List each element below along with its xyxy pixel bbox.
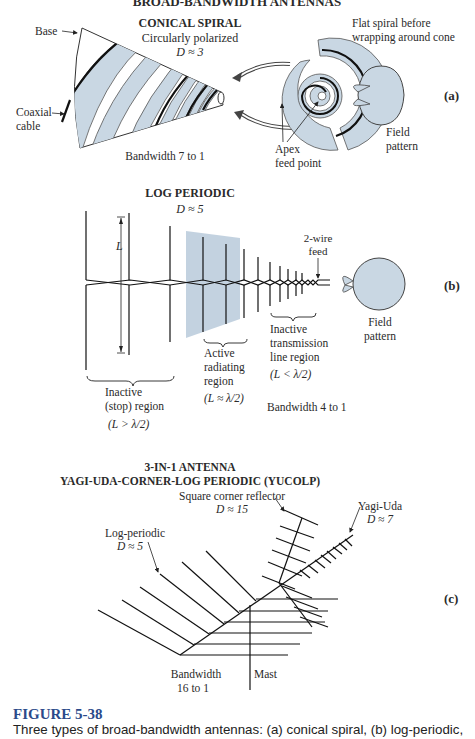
panel-a-id: (a) (444, 88, 459, 103)
flat-spiral-label-1: Flat spiral before (352, 17, 431, 30)
field-label-a1: Field (386, 126, 410, 138)
inactive-stop-1: Inactive (105, 386, 142, 398)
apex-label-2: feed point (275, 157, 322, 170)
lp-label-1: Log-periodic (105, 527, 165, 540)
panel-b-id: (b) (444, 278, 460, 293)
figure-header: BROAD-BANDWIDTH ANTENNAS (133, 0, 341, 9)
flat-spiral-label-2: wrapping around cone (352, 31, 455, 44)
active-cond: (L ≈ λ/2) (204, 392, 244, 405)
log-periodic-title: LOG PERIODIC (145, 186, 235, 200)
inactive-stop-cond: (L > λ/2) (108, 418, 149, 431)
feed-label-1: 2-wire (304, 232, 333, 244)
corner-label-1: Square corner reflector (179, 490, 285, 503)
bandwidth-a: Bandwidth 7 to 1 (125, 150, 205, 162)
yagi-label-1: Yagi-Uda (358, 500, 402, 513)
active-region-shading (186, 231, 240, 338)
lp-directivity: D ≈ 5 (175, 202, 203, 216)
active-label-3: region (204, 375, 234, 388)
mast-label: Mast (254, 668, 278, 680)
panel-b: LOG PERIODIC D ≈ 5 L 2-wire (86, 186, 460, 431)
bandwidth-c-1: Bandwidth (171, 668, 222, 680)
panel-c-id: (c) (444, 591, 458, 606)
lp-label-2: D ≈ 5 (116, 540, 143, 552)
bandwidth-c-2: 16 to 1 (177, 682, 209, 694)
inactive-tl-2: transmission (270, 337, 328, 349)
bandwidth-b: Bandwidth 4 to 1 (267, 401, 347, 413)
figure-caption: Three types of broad-bandwidth antennas:… (13, 722, 463, 737)
conical-spiral-title: CONICAL SPIRAL (138, 16, 241, 30)
feed-label-2: feed (309, 245, 328, 257)
panel-a: CONICAL SPIRAL Circularly polarized D ≈ … (16, 16, 459, 170)
yucolp-title-2: YAGI-UDA-CORNER-LOG PERIODIC (YUCOLP) (60, 475, 320, 488)
conical-subtitle: Circularly polarized (142, 31, 238, 45)
base-label: Base (35, 25, 57, 37)
conical-directivity: D ≈ 3 (175, 45, 203, 59)
inactive-tl-1: Inactive (270, 323, 307, 335)
active-label-2: radiating (204, 361, 245, 374)
corner-label-2: D ≈ 15 (215, 503, 248, 515)
active-label-1: Active (204, 347, 235, 359)
field-label-b2: pattern (364, 330, 396, 343)
figure-canvas: BROAD-BANDWIDTH ANTENNAS CONICAL SPIRAL … (0, 0, 475, 739)
inactive-tl-3: line region (270, 351, 320, 364)
field-pattern-b (343, 258, 405, 310)
inactive-tl-cond: (L < λ/2) (270, 368, 311, 381)
coaxial-label-2: cable (16, 120, 40, 132)
inactive-stop-2: (stop) region (105, 400, 164, 413)
figure-number: FIGURE 5-38 (13, 706, 103, 723)
coaxial-label-1: Coaxial (16, 106, 52, 118)
length-label: L (115, 239, 123, 253)
yagi-label-2: D ≈ 7 (366, 513, 394, 525)
panel-c: 3-IN-1 ANTENNA YAGI-UDA-CORNER-LOG PERIO… (60, 461, 459, 694)
apex-label-1: Apex (275, 143, 300, 156)
yucolp-title-1: 3-IN-1 ANTENNA (144, 461, 236, 473)
field-label-a2: pattern (386, 140, 418, 153)
field-label-b1: Field (368, 316, 392, 328)
